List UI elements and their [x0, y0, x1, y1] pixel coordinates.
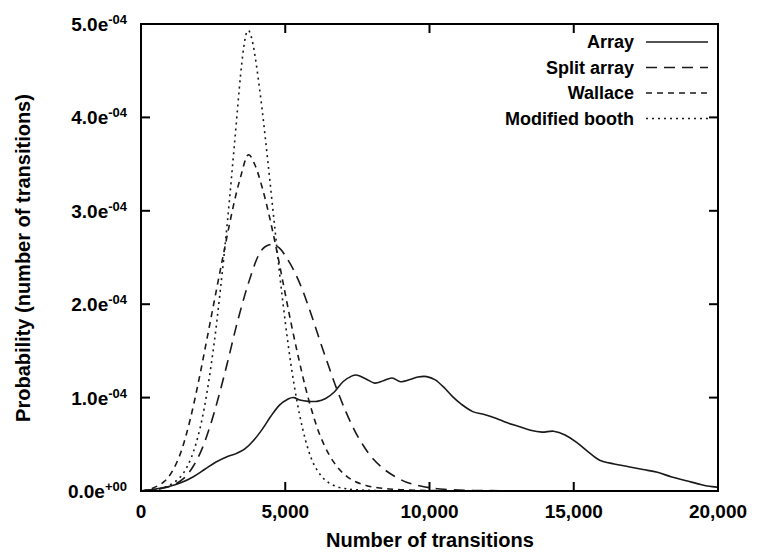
y-tick-label: 1.0e-04	[71, 386, 128, 409]
probability-distribution-chart: 05,00010,00015,00020,000 0.0e+001.0e-042…	[0, 0, 760, 560]
y-tick-label: 4.0e-04	[71, 105, 128, 128]
y-tick-label: 2.0e-04	[71, 292, 128, 315]
series-line-wallace	[141, 155, 718, 491]
x-axis-ticks: 05,00010,00015,00020,000	[136, 24, 747, 522]
chart-legend: ArraySplit arrayWallaceModified booth	[505, 32, 708, 129]
x-tick-label: 0	[136, 501, 147, 522]
y-axis-label: Probability (number of transitions)	[12, 94, 34, 422]
legend-label-modified-booth: Modified booth	[505, 109, 634, 129]
x-tick-label: 20,000	[689, 501, 747, 522]
legend-label-wallace: Wallace	[568, 83, 634, 103]
legend-label-split-array: Split array	[546, 58, 634, 78]
x-tick-label: 5,000	[261, 501, 309, 522]
series-line-split-array	[141, 244, 718, 491]
x-tick-label: 15,000	[545, 501, 603, 522]
legend-label-array: Array	[587, 32, 634, 52]
y-tick-label: 3.0e-04	[71, 199, 128, 222]
chart-figure: 05,00010,00015,00020,000 0.0e+001.0e-042…	[0, 0, 760, 560]
x-tick-label: 10,000	[400, 501, 458, 522]
y-tick-label: 5.0e-04	[71, 12, 128, 35]
series-line-array	[141, 375, 718, 491]
y-tick-label: 0.0e+00	[68, 479, 127, 502]
x-axis-label: Number of transitions	[326, 529, 534, 551]
